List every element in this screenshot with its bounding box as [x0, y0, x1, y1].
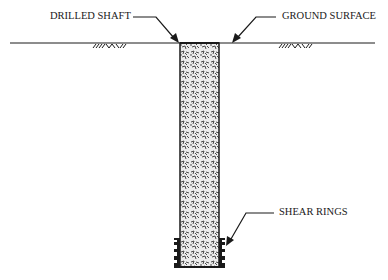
soil-hatch-right [279, 44, 312, 48]
drilled-shaft-diagram [0, 0, 388, 280]
soil-hatch-left [93, 44, 126, 48]
drilled-shaft [180, 43, 219, 267]
drilled-shaft-label: DRILLED SHAFT [50, 11, 131, 22]
ground-surface-label: GROUND SURFACE [282, 11, 376, 22]
drilled-shaft-leader [133, 17, 179, 43]
shear-rings-label: SHEAR RINGS [279, 207, 348, 218]
shear-rings-leader [226, 213, 274, 246]
ground-surface-leader [232, 17, 276, 43]
